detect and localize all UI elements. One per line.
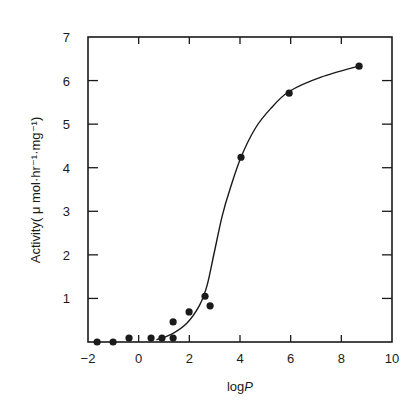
x-tick-label: 10 [385,351,399,366]
data-point [185,308,192,315]
data-point [170,334,177,341]
y-tick-label: 2 [63,248,70,263]
data-point [158,334,165,341]
y-tick-label: 6 [63,74,70,89]
x-tick-label: 8 [338,351,345,366]
x-tick-label: 0 [135,351,142,366]
y-tick-label: 5 [63,117,70,132]
y-axis-title: Activity( μ mol·hr⁻¹·mg⁻¹) [28,117,43,263]
fitted-curve [156,65,361,340]
data-point [170,318,177,325]
data-points [94,63,363,346]
y-tick-label: 4 [63,161,70,176]
x-axis-title: logP [227,379,253,394]
y-tick-label: 7 [63,30,70,45]
data-point [355,63,362,70]
data-point [237,154,244,161]
data-point [147,334,154,341]
plot-border [88,37,392,342]
sigmoid-fit-line [156,65,361,340]
plot-frame [88,37,392,342]
x-tick-label: −2 [81,351,96,366]
y-tick-label: 3 [63,204,70,219]
axis-ticks [88,37,392,342]
data-point [125,334,132,341]
data-point [94,338,101,345]
x-tick-label: 2 [186,351,193,366]
data-point [201,293,208,300]
activity-vs-logp-chart: −202468101234567 logP Activity( μ mol·hr… [0,0,419,415]
data-point [286,90,293,97]
x-tick-label: 6 [287,351,294,366]
data-point [207,302,214,309]
tick-labels: −202468101234567 [63,30,399,366]
data-point [109,338,116,345]
y-tick-label: 1 [63,291,70,306]
x-tick-label: 4 [236,351,243,366]
